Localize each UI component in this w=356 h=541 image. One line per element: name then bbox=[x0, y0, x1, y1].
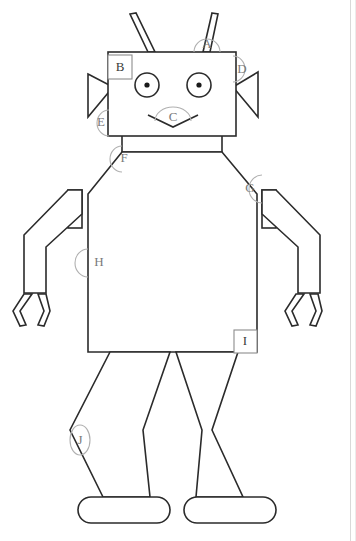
marker-f-label: F bbox=[120, 150, 127, 165]
marker-b-label: B bbox=[116, 59, 125, 74]
marker-c-label: C bbox=[169, 109, 178, 124]
diagram-page: A B C D E F G H I J bbox=[0, 0, 356, 541]
torso-shape bbox=[88, 152, 257, 352]
page-edge-rule bbox=[350, 0, 351, 541]
antenna-left-shape bbox=[130, 13, 155, 52]
leg-right-shape bbox=[176, 352, 243, 497]
leg-left-shape bbox=[70, 352, 170, 497]
marker-j-label: J bbox=[77, 432, 82, 447]
arm-right-shape bbox=[262, 190, 320, 293]
neck-shape bbox=[122, 136, 222, 152]
marker-i-label: I bbox=[243, 333, 247, 348]
hand-right-claw-right bbox=[310, 294, 322, 326]
marker-h-shape bbox=[75, 249, 88, 277]
marker-h-label: H bbox=[94, 254, 103, 269]
hand-left-claw-left bbox=[13, 294, 32, 326]
hand-left-claw-right bbox=[38, 294, 50, 326]
marker-e-label: E bbox=[97, 114, 105, 129]
robot-diagram: A B C D E F G H I J bbox=[0, 0, 356, 541]
marker-a-label: A bbox=[202, 36, 212, 51]
marker-g-label: G bbox=[245, 180, 254, 195]
eye-right-pupil-icon bbox=[196, 82, 201, 87]
hand-right-claw-left bbox=[285, 294, 304, 326]
arm-left-shape bbox=[24, 190, 82, 293]
eye-left-pupil-icon bbox=[144, 82, 149, 87]
foot-right-shape bbox=[184, 497, 276, 523]
marker-d-label: D bbox=[237, 61, 246, 76]
foot-left-shape bbox=[78, 497, 170, 523]
